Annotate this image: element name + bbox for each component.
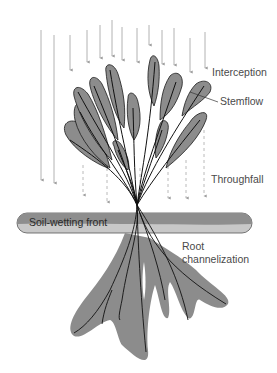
canopy-water-diagram <box>0 0 277 373</box>
label-root: Root <box>182 240 204 253</box>
leaves <box>64 56 211 170</box>
label-channelization: channelization <box>182 253 249 266</box>
label-soil-wetting-front: Soil-wetting front <box>29 216 107 229</box>
label-interception: Interception <box>212 66 267 79</box>
label-stemflow: Stemflow <box>220 95 263 108</box>
label-throughfall: Throughfall <box>211 173 264 186</box>
